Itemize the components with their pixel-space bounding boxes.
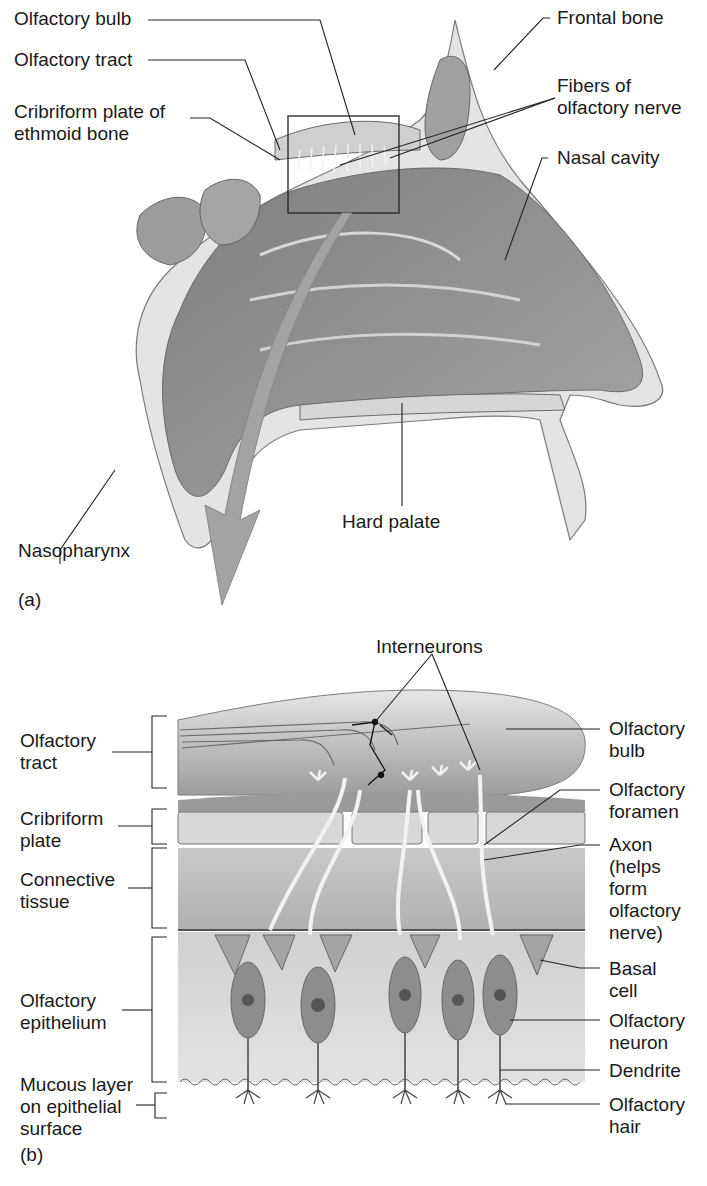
label-cribriform-plate-a: Cribriform plate of ethmoid bone bbox=[14, 101, 165, 145]
label-frontal-bone: Frontal bone bbox=[557, 7, 664, 29]
label-interneurons: Interneurons bbox=[376, 636, 483, 658]
panel-a-tag: (a) bbox=[18, 589, 41, 611]
label-olfactory-foramen: Olfactory foramen bbox=[609, 779, 685, 823]
label-axon: Axon (helps form olfactory nerve) bbox=[609, 834, 681, 944]
label-nasal-cavity: Nasal cavity bbox=[557, 147, 659, 169]
label-olfactory-bulb-b: Olfactory bulb bbox=[609, 718, 685, 762]
label-connective-tissue: Connective tissue bbox=[20, 869, 115, 913]
label-olfactory-bulb-a: Olfactory bulb bbox=[14, 8, 131, 30]
label-olfactory-tract-b: Olfactory tract bbox=[20, 730, 96, 774]
label-cribriform-plate-b: Cribriform plate bbox=[20, 808, 103, 852]
label-olfactory-epithelium: Olfactory epithelium bbox=[20, 990, 107, 1034]
label-dendrite: Dendrite bbox=[609, 1060, 681, 1082]
olfactory-epithelium-illustration bbox=[178, 690, 585, 1104]
label-olfactory-tract-a: Olfactory tract bbox=[14, 49, 132, 71]
label-olfactory-hair: Olfactory hair bbox=[609, 1094, 685, 1138]
label-mucous-layer: Mucous layer on epithelial surface bbox=[20, 1074, 133, 1140]
label-hard-palate: Hard palate bbox=[342, 511, 440, 533]
label-nasopharynx: Nasopharynx bbox=[18, 540, 130, 562]
label-olfactory-neuron: Olfactory neuron bbox=[609, 1010, 685, 1054]
panel-b-brackets bbox=[112, 716, 167, 1118]
label-fibers-olfactory-nerve: Fibers of olfactory nerve bbox=[557, 75, 682, 119]
panel-b-tag: (b) bbox=[20, 1144, 43, 1166]
label-basal-cell: Basal cell bbox=[609, 958, 657, 1002]
